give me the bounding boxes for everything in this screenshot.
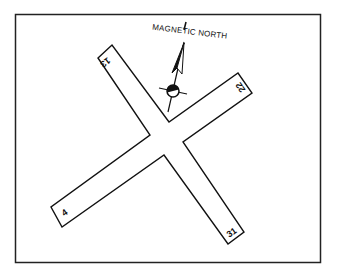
runway-diagram: 13 22 4 31 MAGNETIC NORTH xyxy=(0,0,338,276)
